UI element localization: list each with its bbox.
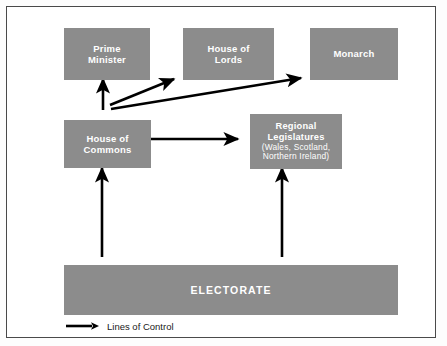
arrow-commons-to-monarch xyxy=(111,78,301,109)
arrow-commons-to-lords xyxy=(110,79,174,105)
node-house-of-commons-line2: Commons xyxy=(84,144,132,155)
node-electorate-label: ELECTORATE xyxy=(190,284,271,296)
legend-label: Lines of Control xyxy=(107,321,174,332)
diagram-canvas: Prime Minister House of Lords Monarch Ho… xyxy=(0,0,447,346)
node-house-of-lords-line2: Lords xyxy=(215,54,242,65)
node-house-of-commons: House of Commons xyxy=(64,120,151,168)
diagram-frame: Prime Minister House of Lords Monarch Ho… xyxy=(6,6,436,338)
node-regional-legislatures-sub2: Northern Ireland) xyxy=(263,152,330,162)
node-house-of-lords-line1: House of xyxy=(207,43,249,54)
node-prime-minister: Prime Minister xyxy=(64,28,150,80)
legend: Lines of Control xyxy=(65,320,174,332)
node-electorate: ELECTORATE xyxy=(64,265,398,315)
node-regional-legislatures-line1: Regional xyxy=(276,121,317,132)
node-prime-minister-line1: Prime xyxy=(93,43,120,54)
node-prime-minister-line2: Minister xyxy=(88,54,126,65)
node-regional-legislatures-line2: Legislatures xyxy=(267,132,324,143)
node-house-of-commons-line1: House of xyxy=(86,133,128,144)
node-monarch: Monarch xyxy=(310,28,398,80)
node-house-of-lords: House of Lords xyxy=(183,28,274,80)
right-arrow-icon xyxy=(65,320,101,332)
node-regional-legislatures: Regional Legislatures (Wales, Scotland, … xyxy=(250,114,342,169)
node-monarch-line1: Monarch xyxy=(334,48,375,59)
